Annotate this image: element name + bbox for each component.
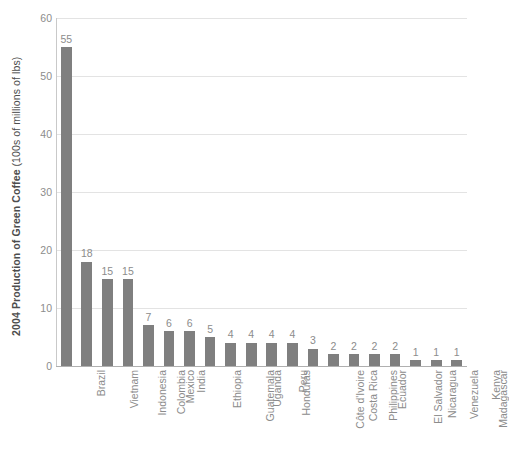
bar-group[interactable]: 2 bbox=[369, 18, 380, 366]
bar[interactable] bbox=[164, 331, 175, 366]
bar[interactable] bbox=[410, 360, 421, 366]
bar-group[interactable]: 3 bbox=[308, 18, 319, 366]
y-axis-tick-label: 30 bbox=[40, 187, 52, 198]
bar[interactable] bbox=[143, 325, 154, 366]
bar-group[interactable]: 4 bbox=[225, 18, 236, 366]
bar[interactable] bbox=[102, 279, 113, 366]
bar-value-label: 1 bbox=[454, 347, 460, 358]
y-axis-title-bold: 2004 Production of Green Coffee bbox=[11, 169, 23, 335]
y-axis-tick-label: 50 bbox=[40, 71, 52, 82]
bar-value-label: 4 bbox=[248, 329, 254, 340]
x-axis-category-label: Uganda bbox=[271, 370, 282, 407]
x-axis-category-label: Costa Rica bbox=[368, 370, 379, 421]
plot-area: 551815157665444432222111 bbox=[56, 18, 467, 366]
bar-group[interactable]: 6 bbox=[184, 18, 195, 366]
bar[interactable] bbox=[246, 343, 257, 366]
x-axis-category-label: Ethiopia bbox=[232, 370, 243, 408]
y-axis-tick-labels: 0102030405060 bbox=[30, 18, 52, 366]
bar-group[interactable]: 18 bbox=[81, 18, 92, 366]
bar-value-label: 15 bbox=[102, 266, 114, 277]
bar-value-label: 3 bbox=[310, 335, 316, 346]
y-axis-tick-label: 40 bbox=[40, 129, 52, 140]
bar-group[interactable]: 7 bbox=[143, 18, 154, 366]
bar[interactable] bbox=[266, 343, 277, 366]
y-axis-tick-label: 0 bbox=[46, 361, 52, 372]
bar-group[interactable]: 4 bbox=[287, 18, 298, 366]
bar-value-label: 18 bbox=[81, 248, 93, 259]
axis-baseline bbox=[56, 366, 467, 367]
bar-value-label: 1 bbox=[413, 347, 419, 358]
bar-group[interactable]: 2 bbox=[349, 18, 360, 366]
bar-group[interactable]: 55 bbox=[61, 18, 72, 366]
bar[interactable] bbox=[81, 262, 92, 366]
bar-value-label: 4 bbox=[289, 329, 295, 340]
bar[interactable] bbox=[205, 337, 216, 366]
bar-value-label: 2 bbox=[392, 341, 398, 352]
bar[interactable] bbox=[61, 47, 72, 366]
bar-group[interactable]: 6 bbox=[164, 18, 175, 366]
x-axis-category-label: Ecuador bbox=[397, 370, 408, 409]
y-axis-title-light: (100s of millions of lbs) bbox=[11, 56, 23, 166]
bar[interactable] bbox=[328, 354, 339, 366]
bar[interactable] bbox=[123, 279, 134, 366]
bar-group[interactable]: 4 bbox=[266, 18, 277, 366]
x-axis-category-labels: BrazilVietnamIndonesiaColombiaMexicoIndi… bbox=[56, 370, 467, 468]
x-axis-category-label: Peru bbox=[298, 370, 309, 392]
bar-value-label: 1 bbox=[433, 347, 439, 358]
bar-group[interactable]: 15 bbox=[102, 18, 113, 366]
bar-group[interactable]: 2 bbox=[328, 18, 339, 366]
bar-value-label: 55 bbox=[60, 34, 72, 45]
bar-group[interactable]: 1 bbox=[410, 18, 421, 366]
bar-group[interactable]: 5 bbox=[205, 18, 216, 366]
bar[interactable] bbox=[390, 354, 401, 366]
bar[interactable] bbox=[431, 360, 442, 366]
x-axis-category-label: El Salvador bbox=[432, 370, 443, 424]
x-axis-category-label: Nicaragua bbox=[447, 370, 458, 418]
y-axis-tick-label: 10 bbox=[40, 303, 52, 314]
bar-value-label: 2 bbox=[330, 341, 336, 352]
bar-value-label: 5 bbox=[207, 324, 213, 335]
x-axis-category-label: Brazil bbox=[97, 370, 108, 396]
bar[interactable] bbox=[369, 354, 380, 366]
bar[interactable] bbox=[184, 331, 195, 366]
y-axis-tick-label: 60 bbox=[40, 13, 52, 24]
bar-value-label: 6 bbox=[166, 318, 172, 329]
bar-group[interactable]: 1 bbox=[451, 18, 462, 366]
x-axis-category-label: Venezuela bbox=[469, 370, 480, 419]
x-axis-category-label: Indonesia bbox=[157, 370, 168, 416]
bar[interactable] bbox=[225, 343, 236, 366]
bar-group[interactable]: 2 bbox=[390, 18, 401, 366]
x-axis-category-label: India bbox=[196, 370, 207, 393]
bar-value-label: 4 bbox=[269, 329, 275, 340]
bar-group[interactable]: 4 bbox=[246, 18, 257, 366]
bar-group[interactable]: 15 bbox=[123, 18, 134, 366]
x-axis-category-label: Côte d'Ivoire bbox=[355, 370, 366, 429]
bar[interactable] bbox=[308, 349, 319, 366]
bar-value-label: 7 bbox=[146, 312, 152, 323]
bar[interactable] bbox=[451, 360, 462, 366]
y-axis-tick-label: 20 bbox=[40, 245, 52, 256]
bars-layer: 551815157665444432222111 bbox=[56, 18, 467, 366]
bar-value-label: 6 bbox=[187, 318, 193, 329]
y-axis-title: 2004 Production of Green Coffee (100s of… bbox=[0, 0, 34, 392]
bar-value-label: 2 bbox=[351, 341, 357, 352]
bar-value-label: 2 bbox=[372, 341, 378, 352]
bar[interactable] bbox=[349, 354, 360, 366]
x-axis-category-label: Kenya bbox=[491, 370, 502, 400]
x-axis-category-label: Vietnam bbox=[129, 370, 140, 408]
bar[interactable] bbox=[287, 343, 298, 366]
bar-value-label: 4 bbox=[228, 329, 234, 340]
bar-value-label: 15 bbox=[122, 266, 134, 277]
bar-group[interactable]: 1 bbox=[431, 18, 442, 366]
